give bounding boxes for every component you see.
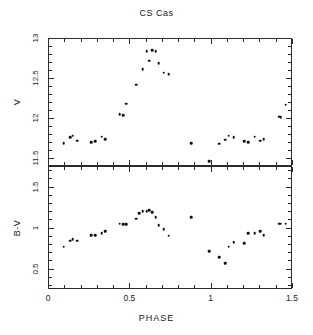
y-tick: [288, 178, 291, 179]
data-point: [224, 139, 227, 142]
y-axis-label-bv: B-V: [12, 219, 22, 236]
x-tick: [113, 162, 114, 165]
y-tick: [288, 236, 291, 237]
x-tick-label: 1.5: [286, 293, 298, 303]
data-point: [71, 135, 74, 138]
y-tick-label-bv: 0.5: [31, 263, 40, 274]
data-point: [284, 222, 287, 225]
bv-color-panel: [48, 166, 292, 289]
y-tick: [49, 78, 54, 79]
data-point: [284, 103, 287, 106]
y-tick: [49, 54, 52, 55]
y-tick: [288, 195, 291, 196]
x-tick: [292, 167, 293, 172]
data-point: [148, 59, 151, 62]
y-tick: [288, 62, 291, 63]
data-point: [259, 230, 262, 233]
data-point: [148, 209, 151, 212]
x-tick: [97, 167, 98, 170]
x-tick: [276, 162, 277, 165]
data-point: [247, 141, 250, 144]
y-tick: [288, 166, 291, 167]
data-point: [208, 250, 211, 253]
x-tick: [194, 39, 195, 42]
x-tick: [129, 160, 130, 165]
y-tick: [49, 203, 52, 204]
x-tick: [276, 285, 277, 288]
data-point: [118, 222, 121, 225]
y-tick: [49, 244, 52, 245]
x-tick: [178, 39, 179, 42]
y-tick-label-v: 11.5: [31, 151, 40, 166]
x-tick: [194, 162, 195, 165]
data-point: [158, 62, 161, 65]
x-tick: [162, 285, 163, 288]
x-tick: [259, 162, 260, 165]
data-point: [135, 217, 138, 220]
chart-title: CS Cas: [0, 8, 313, 18]
y-tick: [49, 219, 52, 220]
y-tick-label-v: 12.5: [31, 70, 40, 86]
data-point: [104, 230, 107, 233]
y-tick: [49, 62, 52, 63]
y-tick: [49, 195, 52, 196]
x-tick: [194, 167, 195, 170]
x-tick: [227, 285, 228, 288]
data-point: [227, 245, 230, 248]
data-point: [253, 232, 256, 235]
x-tick: [146, 285, 147, 288]
x-tick: [97, 39, 98, 42]
x-tick: [113, 285, 114, 288]
data-point: [76, 240, 79, 243]
data-point: [122, 114, 125, 117]
y-tick: [286, 38, 291, 39]
x-tick: [162, 167, 163, 170]
x-tick: [243, 162, 244, 165]
y-tick: [49, 236, 52, 237]
y-tick: [286, 78, 291, 79]
y-tick: [49, 260, 52, 261]
x-tick: [113, 39, 114, 42]
y-tick: [288, 54, 291, 55]
data-point: [218, 256, 221, 259]
y-tick: [49, 126, 52, 127]
y-tick: [49, 277, 52, 278]
data-point: [118, 113, 121, 116]
y-tick-label-bv: 1.5: [31, 181, 40, 192]
y-tick: [49, 118, 54, 119]
y-tick: [49, 187, 54, 188]
y-tick: [49, 38, 54, 39]
x-tick: [292, 39, 293, 44]
data-point: [162, 228, 165, 231]
y-tick: [49, 285, 52, 286]
y-tick: [288, 211, 291, 212]
x-tick: [292, 283, 293, 288]
x-tick: [292, 160, 293, 165]
x-tick: [276, 167, 277, 170]
data-point: [190, 142, 193, 145]
y-tick: [288, 170, 291, 171]
y-tick: [286, 158, 291, 159]
data-point: [125, 223, 128, 226]
data-point: [151, 211, 154, 214]
x-tick: [211, 283, 212, 288]
data-point: [243, 140, 246, 143]
v-plot-area: [49, 39, 291, 165]
y-tick: [49, 166, 52, 167]
x-tick: [129, 167, 130, 172]
y-axis-label-v: V: [12, 99, 22, 106]
y-tick: [49, 46, 52, 47]
x-tick: [162, 39, 163, 42]
y-tick: [49, 170, 52, 171]
y-tick: [286, 118, 291, 119]
data-point: [259, 139, 262, 142]
y-tick: [49, 211, 52, 212]
y-tick: [288, 244, 291, 245]
data-point: [94, 140, 97, 143]
bv-plot-area: [49, 167, 291, 288]
y-tick: [49, 150, 52, 151]
x-tick: [97, 285, 98, 288]
x-tick: [64, 39, 65, 42]
data-point: [247, 232, 250, 235]
data-point: [280, 116, 283, 119]
